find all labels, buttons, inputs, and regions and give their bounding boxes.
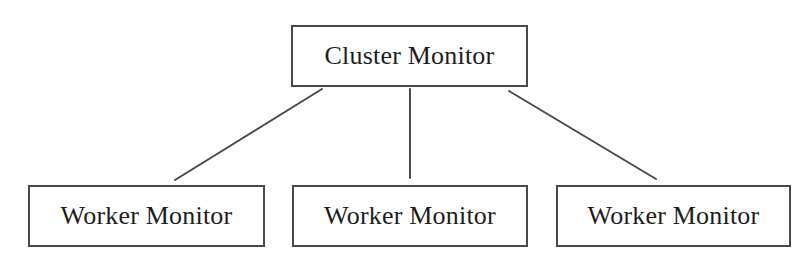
node-cluster-monitor-label: Cluster Monitor [325,43,495,69]
node-cluster-monitor: Cluster Monitor [291,25,528,87]
node-worker-monitor-3: Worker Monitor [556,185,791,247]
node-worker-monitor-3-label: Worker Monitor [588,203,760,229]
diagram-canvas: Cluster Monitor Worker Monitor Worker Mo… [0,0,810,262]
edge-cluster-to-worker-3 [509,91,656,179]
node-worker-monitor-1: Worker Monitor [28,185,265,247]
node-worker-monitor-2-label: Worker Monitor [324,203,496,229]
node-worker-monitor-1-label: Worker Monitor [61,203,233,229]
node-worker-monitor-2: Worker Monitor [292,185,528,247]
edge-cluster-to-worker-1 [175,89,322,180]
